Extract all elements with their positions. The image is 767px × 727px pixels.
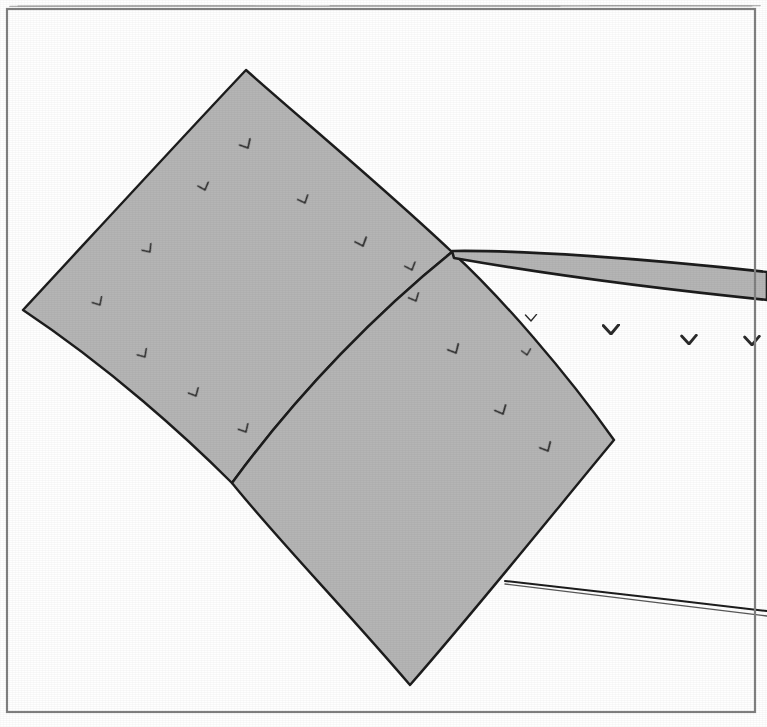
page-edge-artifact xyxy=(10,5,760,6)
figure-plate: Scanned figure plate xyxy=(0,0,767,727)
figure-canvas xyxy=(0,0,767,727)
